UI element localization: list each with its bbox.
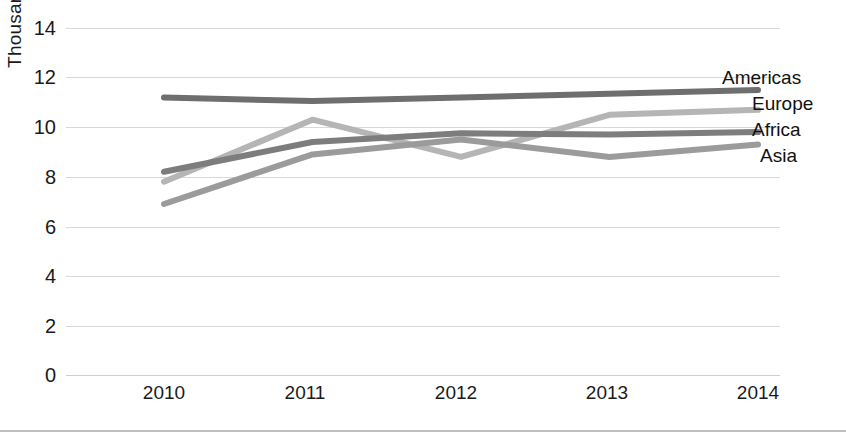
series-label-europe: Europe [752,93,813,115]
y-tick-6: 6 [45,216,56,239]
y-tick-14: 14 [34,17,56,40]
x-axis-tick-labels: 2010 2011 2012 2013 2014 [66,382,846,422]
y-tick-2: 2 [45,315,56,338]
series-line-asia [164,140,758,205]
plot-area [66,0,846,432]
x-tick-2011: 2011 [285,382,326,404]
x-tick-2014: 2014 [737,382,779,404]
line-chart: Thousands 14 12 10 8 6 4 2 0 2010 201 [0,0,846,432]
series-layer [66,0,780,432]
series-line-americas [164,90,758,101]
series-label-americas: Americas [722,67,801,89]
x-tick-2013: 2013 [586,382,628,404]
series-line-europe [164,110,758,182]
y-tick-0: 0 [45,364,56,387]
y-tick-8: 8 [45,166,56,189]
series-label-asia: Asia [760,145,797,167]
y-axis-tick-labels: 14 12 10 8 6 4 2 0 [0,0,64,432]
y-tick-4: 4 [45,265,56,288]
y-tick-10: 10 [34,116,56,139]
x-tick-2012: 2012 [435,382,477,404]
y-tick-12: 12 [34,66,56,89]
x-tick-2010: 2010 [143,382,185,404]
series-label-africa: Africa [752,119,801,141]
